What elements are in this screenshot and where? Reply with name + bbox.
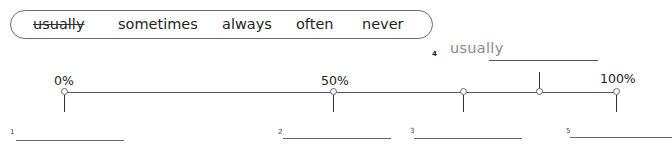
- frequency-scale-line: [64, 92, 617, 93]
- tick-marker-2: [333, 95, 334, 112]
- label-50-percent: 50%: [321, 73, 349, 88]
- label-0-percent: 0%: [54, 73, 74, 88]
- blank-number-3: 3: [410, 127, 414, 135]
- example-number: 4: [432, 50, 437, 58]
- blank-answer-line-2[interactable]: [283, 138, 391, 139]
- word-never: never: [362, 15, 404, 33]
- blank-number-1: 1: [10, 128, 14, 136]
- word-usually-crossed-out: usually: [33, 15, 84, 33]
- scale-node-3: [460, 88, 467, 95]
- word-sometimes: sometimes: [118, 15, 198, 33]
- label-100-percent: 100%: [600, 71, 636, 86]
- example-answer: usually: [450, 40, 504, 56]
- word-always: always: [222, 15, 272, 33]
- scale-node-0: [61, 88, 68, 95]
- blank-number-5: 5: [566, 127, 570, 135]
- word-often: often: [296, 15, 334, 33]
- tick-marker-4: [539, 72, 540, 89]
- example-answer-line: [489, 60, 598, 61]
- blank-answer-line-5[interactable]: [570, 137, 672, 138]
- tick-marker-3: [463, 95, 464, 112]
- tick-marker-1: [64, 95, 65, 112]
- scale-node-100: [613, 88, 620, 95]
- blank-answer-line-3[interactable]: [414, 138, 522, 139]
- blank-number-2: 2: [278, 128, 282, 136]
- tick-marker-5: [616, 95, 617, 112]
- scale-node-50: [330, 88, 337, 95]
- blank-answer-line-1[interactable]: [16, 140, 124, 141]
- scale-node-4: [536, 88, 543, 95]
